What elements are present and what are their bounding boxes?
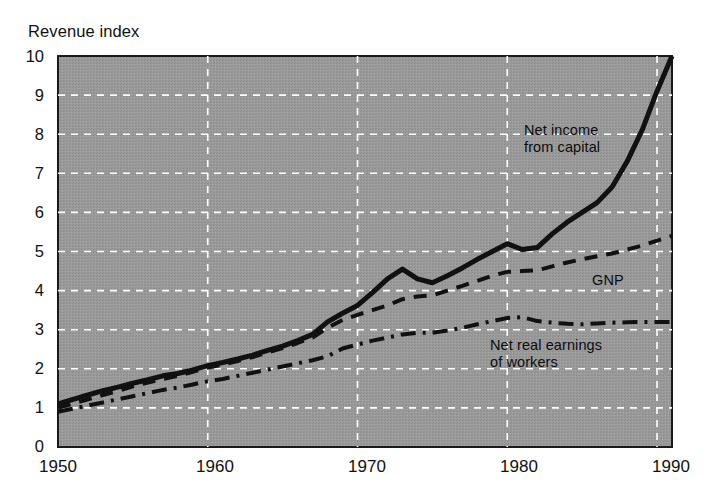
plot-area — [0, 0, 707, 502]
revenue-index-chart: Revenue index 10 9 8 7 6 5 4 3 2 1 0 195… — [0, 0, 707, 502]
series-label-net-real-earnings-of-workers: Net real earnings of workers — [490, 337, 602, 371]
series-label-gnp: GNP — [592, 272, 624, 289]
series-label-net-income-from-capital: Net income from capital — [524, 122, 600, 156]
